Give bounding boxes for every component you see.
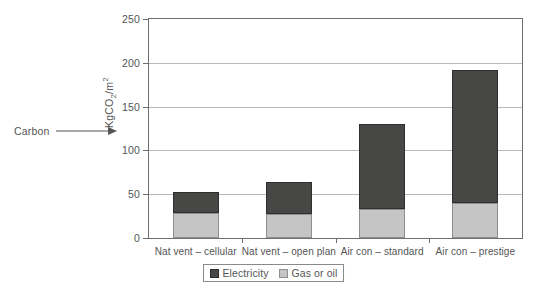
bar-stack[interactable]	[173, 192, 219, 238]
bar-stack[interactable]	[452, 70, 498, 238]
chart-legend: ElectricityGas or oil	[203, 264, 345, 282]
bar-segment-electricity[interactable]	[266, 182, 312, 214]
x-axis-tick	[242, 238, 243, 243]
bar-stack[interactable]	[359, 124, 405, 238]
y-axis-title-prefix: KgCO	[103, 99, 115, 128]
y-axis-tick-label: 250	[122, 13, 140, 25]
bar-segment-gas-or-oil[interactable]	[452, 203, 498, 238]
y-axis-tick	[143, 238, 149, 239]
bar-segment-gas-or-oil[interactable]	[266, 214, 312, 238]
y-axis-tick	[143, 194, 149, 195]
carbon-emissions-stacked-bar-chart: KgCO2/m2 050100150200250 Nat vent – cell…	[0, 0, 547, 296]
y-axis-title-sup: 2	[101, 77, 110, 82]
plot-area: 050100150200250 Nat vent – cellularNat v…	[148, 18, 523, 239]
x-axis-tick	[429, 238, 430, 243]
y-axis-title: KgCO2/m2	[101, 77, 118, 128]
x-axis-category-label: Nat vent – cellular	[155, 246, 237, 257]
y-axis-tick	[143, 63, 149, 64]
gridline	[149, 63, 522, 64]
y-axis-tick-label: 0	[134, 232, 140, 244]
bar-stack[interactable]	[266, 182, 312, 238]
legend-label: Electricity	[223, 267, 269, 279]
legend-item[interactable]: Electricity	[210, 267, 269, 279]
legend-swatch-gas	[279, 269, 288, 278]
y-axis-tick	[143, 19, 149, 20]
bar-segment-electricity[interactable]	[173, 192, 219, 214]
y-axis-tick	[143, 107, 149, 108]
y-axis-title-sub: 2	[109, 94, 118, 99]
y-axis-tick-label: 200	[122, 57, 140, 69]
bar-segment-gas-or-oil[interactable]	[359, 209, 405, 238]
legend-swatch-electricity	[210, 269, 219, 278]
x-axis-tick	[336, 238, 337, 243]
x-axis-category-label: Nat vent – open plan	[242, 246, 336, 257]
y-axis-tick	[143, 150, 149, 151]
y-axis-tick-label: 100	[122, 144, 140, 156]
x-axis-category-label: Air con – prestige	[436, 246, 516, 257]
y-axis-title-mid: /m	[103, 82, 115, 94]
bar-segment-electricity[interactable]	[452, 70, 498, 203]
x-axis-category-label: Air con – standard	[341, 246, 424, 257]
legend-label: Gas or oil	[292, 267, 338, 279]
legend-item[interactable]: Gas or oil	[279, 267, 338, 279]
y-axis-tick-label: 150	[122, 101, 140, 113]
bar-segment-gas-or-oil[interactable]	[173, 213, 219, 238]
bar-segment-electricity[interactable]	[359, 124, 405, 209]
y-axis-tick-label: 50	[128, 188, 140, 200]
